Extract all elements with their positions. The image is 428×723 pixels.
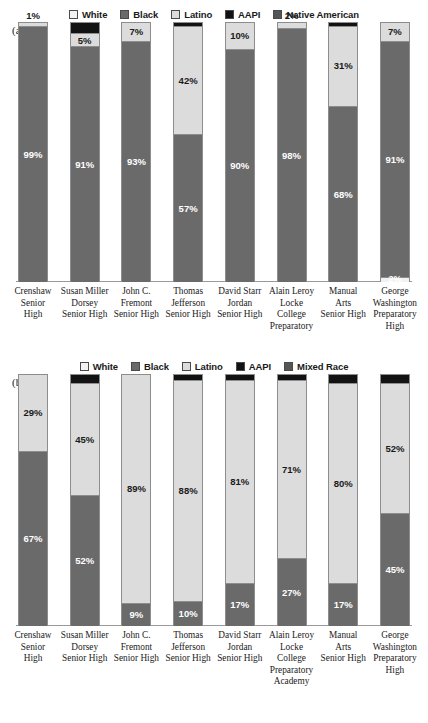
x-axis-labels-panel-b: CrenshawSeniorHighSusan MillerDorseySeni…: [8, 630, 420, 688]
x-axis-label-line: Preparatory: [370, 653, 420, 665]
bar-segment-latino[interactable]: 29%: [19, 375, 47, 451]
x-axis-label-line: Arts: [318, 298, 368, 310]
segment-value-label: 45%: [385, 565, 404, 575]
stacked-bar[interactable]: 80%17%: [328, 374, 358, 626]
bar-segment-black[interactable]: 27%: [278, 558, 306, 626]
stacked-bar[interactable]: 5%91%: [70, 22, 100, 282]
segment-value-label: 2%: [388, 274, 401, 284]
segment-value-label: 57%: [179, 204, 198, 214]
stacked-bar[interactable]: 7%93%: [121, 22, 151, 282]
legend-swatch-icon: [171, 10, 180, 19]
bar-column[interactable]: 7%93%: [111, 22, 161, 282]
bar-segment-latino[interactable]: 45%: [71, 383, 99, 496]
bar-segment-black[interactable]: 99%: [19, 26, 47, 282]
stacked-bar[interactable]: 2%98%: [277, 22, 307, 282]
x-axis-label-line: David Starr: [215, 630, 265, 642]
x-axis-label-line: Dorsey: [60, 642, 110, 654]
bar-segment-black[interactable]: 45%: [381, 513, 409, 626]
bar-segment-black[interactable]: 17%: [226, 583, 254, 626]
bar-segment-white[interactable]: 2%: [381, 277, 409, 282]
segment-value-label: 17%: [334, 600, 353, 610]
x-axis-label: Alain LeroyLockeCollegePreparatory: [267, 286, 317, 332]
legend-swatch-icon: [80, 362, 89, 371]
stacked-bar[interactable]: 7%91%2%: [380, 22, 410, 282]
stacked-bar[interactable]: 52%45%: [380, 374, 410, 626]
bar-segment-black[interactable]: 98%: [278, 28, 306, 282]
stacked-bar[interactable]: 29%67%: [18, 374, 48, 626]
bar-column[interactable]: 2%98%: [267, 22, 317, 282]
stacked-bar[interactable]: 45%52%: [70, 374, 100, 626]
segment-value-label: 71%: [282, 465, 301, 475]
bar-segment-latino[interactable]: 7%: [122, 23, 150, 41]
bar-segment-black[interactable]: 57%: [174, 134, 202, 282]
bar-segment-black[interactable]: 9%: [122, 603, 150, 626]
x-axis-label-line: College: [267, 309, 317, 321]
bar-segment-aapi[interactable]: [71, 375, 99, 383]
bar-column[interactable]: 81%17%: [215, 374, 265, 626]
bar-segment-latino[interactable]: 52%: [381, 383, 409, 514]
stacked-bar[interactable]: 81%17%: [225, 374, 255, 626]
bar-segment-black[interactable]: 17%: [329, 583, 357, 626]
bar-column[interactable]: 5%91%: [60, 22, 110, 282]
x-axis-label-line: Jordan: [215, 642, 265, 654]
bar-column[interactable]: 89%9%: [111, 374, 161, 626]
bar-column[interactable]: 42%57%: [163, 22, 213, 282]
bar-segment-latino[interactable]: 7%: [381, 23, 409, 41]
stacked-bar[interactable]: 42%57%: [173, 22, 203, 282]
x-axis-label-line: John C.: [111, 286, 161, 298]
stacked-bar[interactable]: 88%10%: [173, 374, 203, 626]
bar-column[interactable]: 31%68%: [318, 22, 368, 282]
bar-column[interactable]: 88%10%: [163, 374, 213, 626]
bar-segment-latino[interactable]: 81%: [226, 380, 254, 583]
bar-column[interactable]: 71%27%: [267, 374, 317, 626]
bar-column[interactable]: 10%90%: [215, 22, 265, 282]
bar-segment-latino[interactable]: 10%: [226, 23, 254, 49]
bar-column[interactable]: 80%17%: [318, 374, 368, 626]
x-axis-label-line: Susan Miller: [60, 630, 110, 642]
bar-segment-black[interactable]: 10%: [174, 601, 202, 626]
x-axis-label-line: Crenshaw: [8, 630, 58, 642]
bar-segment-latino[interactable]: 31%: [329, 26, 357, 106]
stacked-bar[interactable]: 10%90%: [225, 22, 255, 282]
x-axis-label-line: Senior High: [111, 653, 161, 665]
bar-segment-black[interactable]: 91%: [71, 46, 99, 282]
bar-segment-latino[interactable]: 71%: [278, 380, 306, 558]
stacked-bar[interactable]: 71%27%: [277, 374, 307, 626]
bar-segment-latino[interactable]: 88%: [174, 380, 202, 601]
segment-value-label: 88%: [179, 486, 198, 496]
x-axis-label-line: Arts: [318, 642, 368, 654]
bar-segment-latino[interactable]: 5%: [71, 33, 99, 46]
bar-segment-latino[interactable]: 89%: [122, 375, 150, 603]
legend-item-mixed-race: Mixed Race: [284, 361, 348, 372]
stacked-bar[interactable]: 31%68%: [328, 22, 358, 282]
bar-segment-aapi[interactable]: [381, 375, 409, 383]
legend-label: Black: [144, 361, 169, 372]
bar-segment-latino[interactable]: 42%: [174, 26, 202, 135]
x-axis-label-line: Senior High: [60, 309, 110, 321]
bar-column[interactable]: 1%99%: [8, 22, 58, 282]
legend-swatch-icon: [69, 10, 78, 19]
x-axis-label: David StarrJordanSenior High: [215, 630, 265, 688]
x-axis-label-line: Senior High: [215, 309, 265, 321]
bar-segment-black[interactable]: 67%: [19, 451, 47, 626]
x-axis-label-line: Thomas: [163, 286, 213, 298]
bar-column[interactable]: 7%91%2%: [370, 22, 420, 282]
bar-segment-black[interactable]: 52%: [71, 495, 99, 626]
x-axis-label-line: Senior High: [163, 653, 213, 665]
stacked-bar[interactable]: 1%99%: [18, 22, 48, 282]
x-axis-label-line: Jefferson: [163, 642, 213, 654]
bar-segment-black[interactable]: 93%: [122, 41, 150, 282]
bar-segment-black[interactable]: 91%: [381, 41, 409, 277]
bar-column[interactable]: 52%45%: [370, 374, 420, 626]
bar-segment-aapi[interactable]: [329, 375, 357, 383]
stacked-bar[interactable]: 89%9%: [121, 374, 151, 626]
bar-column[interactable]: 29%67%: [8, 374, 58, 626]
bar-segment-black[interactable]: 90%: [226, 49, 254, 282]
bar-segment-latino[interactable]: 80%: [329, 383, 357, 584]
x-axis-label-line: College: [267, 653, 317, 665]
x-axis-label-line: Susan Miller: [60, 286, 110, 298]
bar-column[interactable]: 45%52%: [60, 374, 110, 626]
bar-segment-aapi[interactable]: [71, 23, 99, 33]
legend-label: AAPI: [249, 361, 271, 372]
bar-segment-black[interactable]: 68%: [329, 106, 357, 282]
